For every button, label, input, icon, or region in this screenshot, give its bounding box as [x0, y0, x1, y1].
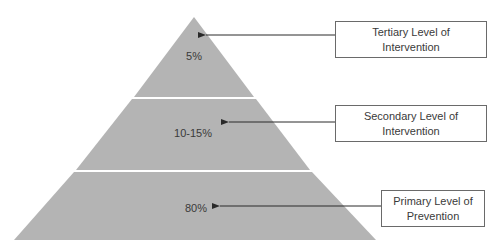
label-tertiary-line1: Tertiary Level of — [372, 25, 450, 40]
label-secondary-line1: Secondary Level of — [364, 109, 458, 124]
label-primary-line1: Primary Level of — [393, 194, 472, 209]
prevention-pyramid-diagram: 5% 10-15% 80% Tertiary Level of Interven… — [0, 0, 503, 250]
label-primary-line2: Prevention — [393, 209, 472, 224]
label-box-primary: Primary Level of Prevention — [381, 190, 485, 227]
label-secondary-line2: Intervention — [364, 124, 458, 139]
percent-label-secondary: 10-15% — [174, 127, 212, 139]
percent-label-tertiary: 5% — [186, 50, 202, 62]
label-box-secondary: Secondary Level of Intervention — [335, 105, 487, 142]
percent-label-primary: 80% — [185, 202, 207, 214]
label-box-tertiary: Tertiary Level of Intervention — [335, 21, 487, 58]
label-tertiary-line2: Intervention — [372, 40, 450, 55]
